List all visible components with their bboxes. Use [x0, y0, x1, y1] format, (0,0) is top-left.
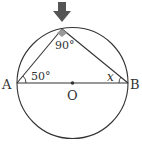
down-arrow-icon: [53, 2, 71, 22]
label-b: B: [130, 77, 140, 92]
right-angle-marker: [57, 29, 67, 37]
chord-cb: [62, 29, 128, 83]
label-angle-b: x: [107, 70, 114, 84]
angle-arc-b: [119, 77, 121, 83]
label-angle-top: 90°: [55, 39, 75, 52]
circle-diagram: A B O 50° 90° x: [0, 0, 142, 145]
label-a: A: [1, 77, 12, 92]
label-o: O: [67, 88, 78, 103]
angle-arc-a: [23, 76, 26, 83]
center-point: [71, 81, 75, 85]
label-angle-a: 50°: [31, 70, 51, 83]
